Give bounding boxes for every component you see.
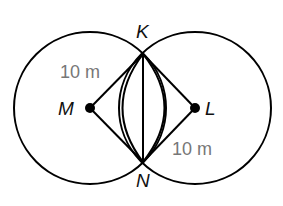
arc-right	[143, 54, 165, 162]
label-l: L	[205, 99, 216, 118]
measurement-ln: 10 m	[172, 140, 212, 158]
label-k: K	[136, 22, 149, 41]
segment-lk	[143, 54, 195, 108]
segment-mn	[90, 108, 143, 162]
label-n: N	[136, 171, 150, 190]
point-m-dot	[85, 103, 95, 113]
geometry-diagram: K N M L 10 m 10 m	[0, 0, 283, 206]
point-l-dot	[190, 103, 200, 113]
measurement-mk: 10 m	[60, 63, 100, 81]
label-m: M	[58, 99, 74, 118]
arc-left	[123, 54, 144, 162]
